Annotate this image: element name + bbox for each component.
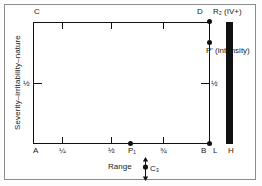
tick-bottom-three-quarter [163,137,164,144]
tick-top-half [111,22,112,29]
data-point-p-prime [207,40,212,45]
movement-diagram-figure: Severity–irritability–nature C D A B L H… [0,0,262,186]
tick-top-quarter [62,22,63,29]
tick-bottom-quarter [62,137,63,144]
x-tick-label-three-quarter: ¾ [160,146,167,155]
tick-bottom-half [111,137,112,144]
range-label: Range [108,162,132,171]
corner-label-b: B [201,146,206,155]
corner-label-d: D [197,7,203,16]
intensity-bar [226,22,233,144]
y-axis-title: Severity–irritability–nature [13,22,22,144]
data-point-d-top [207,19,212,24]
range-point-label: C₃ [150,164,159,173]
corner-label-c: C [34,7,40,16]
resistance-annotation: R₂ (IV+) [213,7,242,16]
data-point-b-bottom [207,141,212,146]
point-label-p1: P₁ [128,146,136,155]
scale-label-high: H [228,146,234,155]
y-half-label-right: ½ [211,79,218,88]
plot-area [33,22,210,144]
y-half-label-left: ½ [23,79,30,88]
tick-top-three-quarter [163,22,164,29]
corner-label-a: A [33,146,38,155]
range-double-arrow-icon [141,157,150,181]
tick-left-half [33,83,42,84]
tick-right-half [201,83,210,84]
x-tick-label-half: ½ [108,146,115,155]
scale-label-low: L [213,146,217,155]
x-tick-label-quarter: ¼ [59,146,66,155]
data-point-p1 [128,141,133,146]
